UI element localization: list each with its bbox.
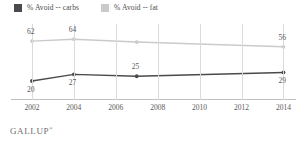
- legend-item-carbs: % Avoid -- carbs: [14, 3, 79, 12]
- legend-swatch-fat: [101, 4, 109, 12]
- data-point: [135, 74, 139, 78]
- x-axis-tick: 2008: [150, 103, 165, 112]
- x-axis-tick: 2010: [192, 103, 207, 112]
- legend-swatch-carbs: [14, 4, 22, 12]
- gridline: [200, 24, 201, 100]
- data-label: 64: [69, 25, 77, 34]
- legend-label-fat: % Avoid -- fat: [114, 3, 158, 12]
- x-axis-tick: 2012: [234, 103, 249, 112]
- data-point: [135, 40, 139, 44]
- gridline: [158, 24, 159, 100]
- series-lines: [11, 24, 296, 100]
- data-label: 27: [69, 78, 77, 87]
- x-axis: 2002200420062008201020122014: [11, 103, 296, 115]
- legend-item-fat: % Avoid -- fat: [101, 3, 158, 12]
- x-axis-tick: 2014: [276, 103, 291, 112]
- data-label: 56: [278, 33, 286, 42]
- gallup-line-chart: % Avoid -- carbs % Avoid -- fat 62645620…: [0, 0, 307, 146]
- gallup-brand: GALLUP®: [10, 126, 53, 136]
- data-label: 25: [132, 62, 140, 71]
- gridline: [116, 24, 117, 100]
- data-label: 29: [278, 76, 286, 85]
- gridline: [74, 24, 75, 100]
- data-label: 20: [27, 85, 35, 94]
- legend-label-carbs: % Avoid -- carbs: [27, 3, 79, 12]
- gridline: [242, 24, 243, 100]
- gallup-brand-text: GALLUP: [10, 126, 49, 136]
- chart-legend: % Avoid -- carbs % Avoid -- fat: [14, 3, 180, 12]
- trademark-icon: ®: [49, 126, 53, 131]
- x-axis-tick: 2002: [24, 103, 39, 112]
- data-label: 62: [27, 27, 35, 36]
- x-axis-tick: 2004: [66, 103, 81, 112]
- plot-area: 62645620272529: [11, 24, 296, 100]
- x-axis-tick: 2006: [108, 103, 123, 112]
